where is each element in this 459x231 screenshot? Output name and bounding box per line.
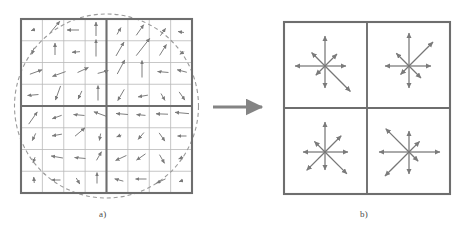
sift-descriptor-figure [0, 0, 459, 231]
panel-a-image-gradients [15, 14, 199, 198]
panel-a-caption: a) [99, 209, 106, 219]
panel-b-caption: b) [360, 209, 368, 219]
figure-background [0, 0, 459, 231]
gradient-arrow [34, 177, 35, 183]
